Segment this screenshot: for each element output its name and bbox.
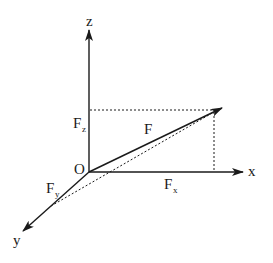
y-axis-label: y [13,232,21,248]
force-f-label: F [144,121,152,137]
y-axis [23,172,89,231]
svg-text:z: z [82,124,86,134]
svg-text:y: y [55,189,60,199]
origin-label: O [74,161,85,177]
svg-text:F: F [73,115,81,131]
force-fz-label: F z [73,115,86,134]
x-axis-label: x [248,163,256,179]
svg-text:F: F [46,180,54,196]
z-axis-label: z [86,13,93,29]
svg-text:F: F [164,176,172,192]
force-fy-label: F y [46,180,60,199]
force-fx-label: F x [164,176,178,195]
svg-text:x: x [173,185,178,195]
force-components-diagram: z x y O F F z F x F y [0,0,273,263]
force-vector-f [89,108,222,172]
